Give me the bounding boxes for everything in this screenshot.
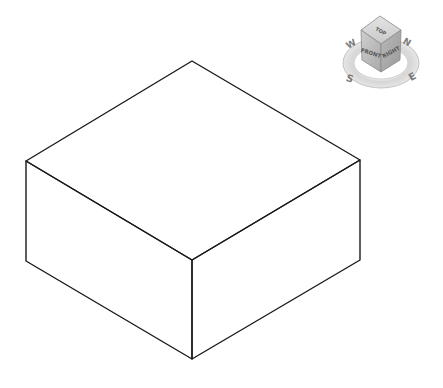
drawing-canvas[interactable]: TOP FRONT RIGHT W N S E	[0, 0, 443, 388]
isometric-box[interactable]	[26, 61, 360, 359]
box-right-face[interactable]	[192, 160, 360, 359]
box-left-face[interactable]	[26, 161, 192, 359]
box-top-face[interactable]	[26, 61, 360, 260]
viewcube[interactable]: TOP FRONT RIGHT W N S E	[343, 16, 419, 88]
